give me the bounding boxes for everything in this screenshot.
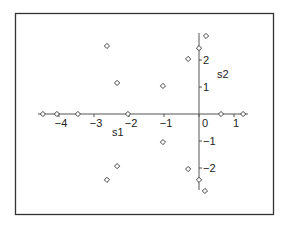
x-tick-label: −4 bbox=[55, 117, 68, 129]
data-point-marker bbox=[203, 33, 208, 38]
data-point-marker bbox=[75, 111, 80, 116]
x-tick-label: −2 bbox=[125, 117, 138, 129]
y-tick-label: −2 bbox=[203, 162, 216, 174]
y-tick-label: −1 bbox=[203, 135, 216, 147]
y-tick-label: 1 bbox=[203, 81, 209, 93]
data-point-marker bbox=[125, 111, 130, 116]
data-point-marker bbox=[218, 111, 223, 116]
x-axis-label: s1 bbox=[112, 126, 124, 138]
data-point-marker bbox=[40, 111, 45, 116]
data-point-marker bbox=[186, 166, 191, 171]
y-axis-label: s2 bbox=[217, 68, 229, 80]
data-point-marker bbox=[196, 177, 201, 182]
data-point-marker bbox=[160, 139, 165, 144]
axes bbox=[38, 33, 248, 190]
data-point-marker bbox=[241, 111, 246, 116]
data-point-marker bbox=[115, 80, 120, 85]
data-point-marker bbox=[196, 46, 201, 51]
x-tick-label: 1 bbox=[233, 117, 239, 129]
y-tick-label: 2 bbox=[203, 54, 209, 66]
scatter-plot: −4−3−2−101−2−112 s1 s2 bbox=[0, 0, 289, 229]
data-point-marker bbox=[104, 43, 109, 48]
data-point-marker bbox=[115, 164, 120, 169]
x-tick-label: −3 bbox=[90, 117, 103, 129]
data-point-marker bbox=[186, 56, 191, 61]
data-point-marker bbox=[104, 177, 109, 182]
data-point-marker bbox=[160, 83, 165, 88]
x-tick-label: 0 bbox=[202, 117, 208, 129]
data-point-marker bbox=[202, 188, 207, 193]
x-tick-label: −1 bbox=[160, 117, 173, 129]
